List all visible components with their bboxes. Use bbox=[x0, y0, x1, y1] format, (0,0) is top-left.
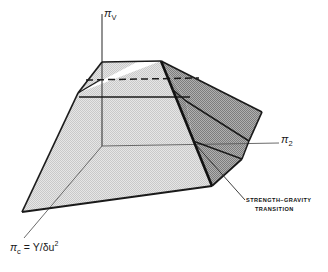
transition-line-2: TRANSITION bbox=[246, 205, 312, 214]
pi-c-numerator: Y bbox=[33, 241, 40, 253]
pi-2-axis-label: π2 bbox=[281, 134, 293, 148]
diagram-canvas bbox=[0, 0, 328, 272]
pi-2-subscript: 2 bbox=[288, 139, 292, 148]
figure-root: πV π2 πc = Y/δu2 STRENGTH–GRAVITY TRANSI… bbox=[0, 0, 328, 272]
strength-gravity-transition-label: STRENGTH–GRAVITY TRANSITION bbox=[246, 196, 312, 213]
edge-top bbox=[102, 61, 161, 62]
pi-v-axis-label: πV bbox=[104, 8, 116, 22]
transition-line-1: STRENGTH–GRAVITY bbox=[246, 197, 312, 203]
pi-v-subscript: V bbox=[111, 13, 116, 22]
pi-c-axis-label: πc = Y/δu2 bbox=[10, 240, 58, 255]
pi-c-symbol: π bbox=[10, 241, 17, 253]
pi-c-exponent: 2 bbox=[54, 240, 58, 247]
